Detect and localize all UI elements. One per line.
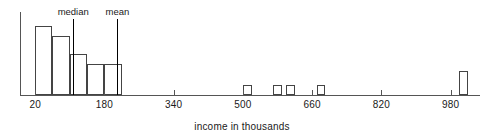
histogram-bar <box>87 64 104 95</box>
histogram-bar <box>104 64 121 95</box>
x-axis-tick <box>312 90 313 96</box>
x-axis-tick-label: 980 <box>431 99 471 110</box>
x-axis-tick <box>174 90 175 96</box>
histogram-bar <box>286 85 295 95</box>
x-axis-tick <box>35 90 36 96</box>
x-axis-line <box>20 95 480 96</box>
x-axis-tick-label: 20 <box>15 99 55 110</box>
histogram-bar <box>52 36 69 95</box>
mean-marker-label: mean <box>87 6 147 17</box>
histogram-bar <box>35 26 52 95</box>
x-axis-tick <box>451 90 452 96</box>
x-axis-tick-label: 180 <box>84 99 124 110</box>
mean-marker-line <box>117 19 118 95</box>
histogram-bar <box>243 85 252 95</box>
x-axis-title: income in thousands <box>0 121 484 132</box>
x-axis-tick-label: 820 <box>361 99 401 110</box>
x-axis-tick <box>243 90 244 96</box>
x-axis-tick-label: 340 <box>154 99 194 110</box>
histogram-figure: 20180340500660820980 medianmean income i… <box>0 0 484 139</box>
histogram-bar <box>459 71 468 95</box>
x-axis-tick <box>381 90 382 96</box>
x-axis-tick <box>104 90 105 96</box>
x-axis-tick-label: 660 <box>292 99 332 110</box>
y-axis-line <box>20 12 21 96</box>
histogram-bar <box>317 85 326 95</box>
histogram-bar <box>273 85 282 95</box>
median-marker-line <box>73 19 74 95</box>
x-axis-tick-label: 500 <box>223 99 263 110</box>
